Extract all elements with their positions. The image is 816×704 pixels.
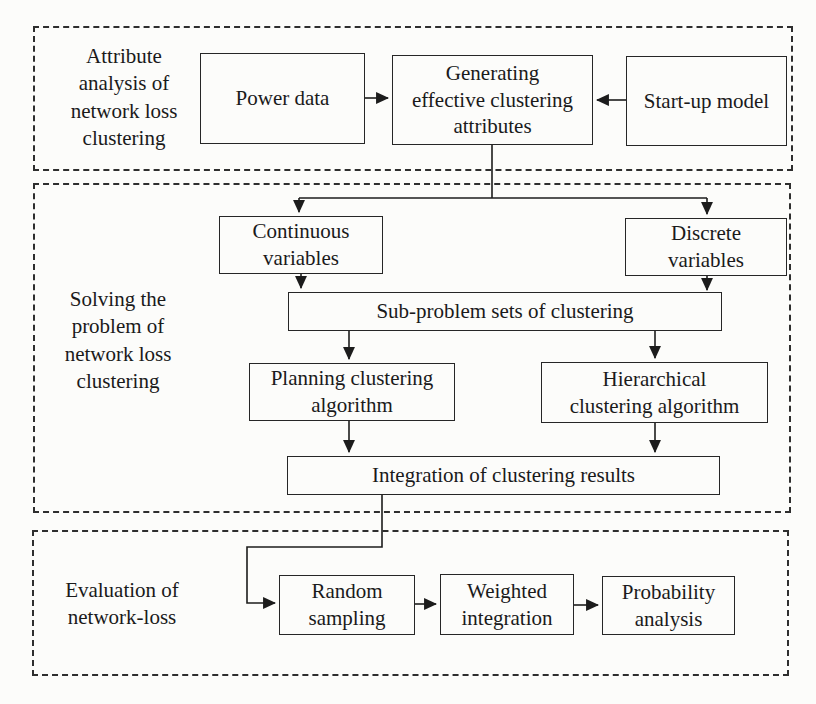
section-label-evaluation: Evaluation of network-loss xyxy=(42,577,202,632)
network-loss-clustering-flowchart: Attribute analysis of network loss clust… xyxy=(0,0,816,704)
node-subproblem-sets: Sub-problem sets of clustering xyxy=(288,292,722,331)
node-probability-analysis: Probability analysis xyxy=(602,576,735,635)
section-label-solving-problem: Solving the problem of network loss clus… xyxy=(40,286,196,395)
node-planning-algorithm: Planning clustering algorithm xyxy=(249,363,455,421)
node-power-data: Power data xyxy=(200,53,365,144)
node-discrete-variables: Discrete variables xyxy=(625,218,787,276)
node-startup-model: Start-up model xyxy=(626,56,787,146)
node-hierarchical-algorithm: Hierarchical clustering algorithm xyxy=(541,362,768,423)
node-integration-results: Integration of clustering results xyxy=(287,456,720,495)
node-random-sampling: Random sampling xyxy=(279,575,415,635)
section-label-attribute-analysis: Attribute analysis of network loss clust… xyxy=(46,43,202,152)
node-generating-attributes: Generating effective clustering attribut… xyxy=(392,55,593,145)
node-weighted-integration: Weighted integration xyxy=(440,574,574,635)
node-continuous-variables: Continuous variables xyxy=(219,216,383,274)
